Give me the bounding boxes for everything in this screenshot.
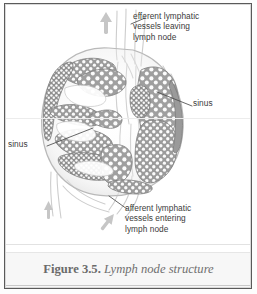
label-sinus-left: sinus xyxy=(8,139,28,149)
caption-rule-top xyxy=(5,252,251,253)
figure-caption-title: Lymph node structure xyxy=(104,262,214,276)
arrow-afferent-right-up xyxy=(98,211,118,233)
scan-seam-upper xyxy=(6,118,250,119)
caption-rule-bottom xyxy=(5,285,251,286)
figure-caption: Figure 3.5. Lymph node structure xyxy=(0,262,257,277)
label-sinus-right: sinus xyxy=(193,98,213,108)
scan-seam-lower xyxy=(6,244,250,245)
arrow-efferent-up xyxy=(100,12,112,34)
label-efferent-lymphatic-vessels: efferent lymphatic vessels leaving lymph… xyxy=(133,11,199,42)
figure-caption-number: Figure 3.5. xyxy=(43,262,100,276)
label-afferent-lymphatic-vessels: afferent lymphatic vessels entering lymp… xyxy=(125,203,191,234)
figure-card: efferent lymphatic vessels leaving lymph… xyxy=(0,0,257,294)
